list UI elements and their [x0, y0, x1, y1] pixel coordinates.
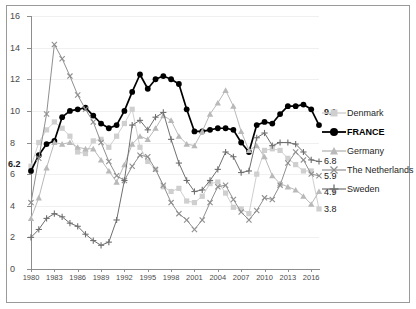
legend-label-denmark: Denmark [347, 108, 384, 118]
legend-label-germany: Germany [347, 146, 384, 156]
series-denmark [28, 107, 321, 217]
sweden-marker-icon [321, 182, 347, 196]
legend-label-netherlands: The Netherlands [347, 165, 414, 175]
netherlands-marker-icon [321, 163, 347, 177]
start-label-france: 6.2 [8, 159, 21, 169]
legend-item-denmark[interactable]: Denmark [321, 103, 414, 122]
germany-marker-icon [321, 144, 347, 158]
legend-item-france[interactable]: FRANCE [321, 122, 414, 141]
legend-label-france: FRANCE [347, 127, 385, 137]
chart-screenshot: 0246810121416 19801983198619891992199519… [0, 0, 416, 309]
series-sweden [28, 109, 322, 248]
legend-item-sweden[interactable]: Sweden [321, 179, 414, 198]
legend-item-germany[interactable]: Germany [321, 141, 414, 160]
legend: Denmark FRANCE Germany [321, 103, 414, 198]
series-france [28, 72, 322, 174]
legend-label-sweden: Sweden [347, 184, 380, 194]
end-label-denmark: 3.8 [324, 204, 337, 214]
denmark-marker-icon [321, 106, 347, 120]
legend-item-netherlands[interactable]: The Netherlands [321, 160, 414, 179]
series-germany [28, 87, 322, 221]
france-marker-icon [321, 125, 347, 139]
